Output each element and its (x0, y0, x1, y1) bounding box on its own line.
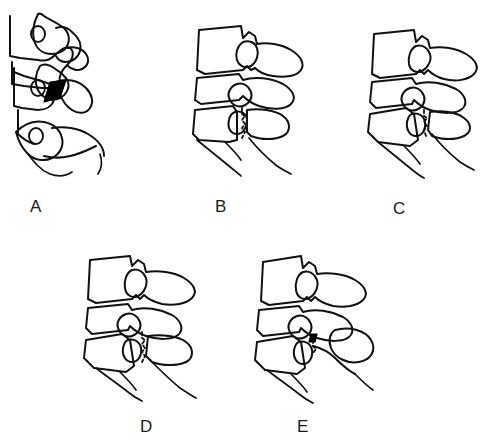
vertebra-lower-fragment-d (146, 335, 192, 365)
panel-b-label: B (215, 198, 227, 215)
pedicle-middle-e (288, 315, 311, 338)
spinous-trailing-a (98, 154, 101, 174)
panel-c: C (368, 28, 482, 186)
pedicle-middle-c (401, 87, 424, 110)
panel-a: A (8, 6, 158, 181)
panel-c-label: C (393, 200, 406, 217)
inferior-process-left-b (197, 140, 241, 176)
lamina-trace-c (404, 146, 420, 164)
inferior-process-left-e (267, 370, 313, 403)
panel-b-illustration (185, 22, 320, 182)
panel-d-label: D (140, 418, 153, 435)
superior-articular-e (313, 346, 355, 374)
inferior-process-right-b (249, 138, 291, 174)
pedicle-top-e (296, 271, 318, 299)
vertebra-lower-fragment-b (247, 109, 289, 139)
panel-c-illustration (368, 28, 482, 186)
vertebra-middle-body-b (195, 74, 294, 109)
panel-a-illustration (8, 6, 158, 181)
panel-d-illustration (82, 252, 220, 404)
pedicle-top-c (409, 45, 431, 72)
vertebra-top-body-b (197, 26, 303, 77)
panel-b: B (185, 22, 320, 182)
inferior-process-right-e (355, 374, 373, 390)
panel-e-illustration (255, 252, 397, 404)
pedicle-top-b (236, 41, 258, 67)
panel-a-label: A (30, 198, 42, 215)
transverse-foramen-lower-a (29, 128, 43, 144)
vertebra-lower-body-b (193, 106, 237, 142)
panel-e: E (255, 252, 397, 404)
vertebra-top-body-c (372, 30, 477, 80)
vertebra-middle-body-c (370, 78, 465, 113)
spinous-tip-upper-a (66, 47, 88, 70)
vertebra-middle-body-e (257, 306, 352, 341)
vertebra-middle-body-d (86, 304, 181, 339)
vertebra-lower-fragment-c (428, 111, 470, 139)
panel-e-label: E (297, 418, 309, 435)
vertebra-top-body-d (88, 256, 195, 305)
pedicle-top-d (125, 269, 147, 297)
vertebra-top-body-e (261, 256, 366, 307)
inferior-process-left-d (96, 368, 142, 401)
lamina-trace-b (225, 142, 241, 160)
pedicle-middle-d (117, 313, 140, 336)
pedicle-middle-b (228, 83, 251, 106)
lamina-lower-a (44, 146, 96, 158)
panel-d: D (82, 252, 220, 404)
